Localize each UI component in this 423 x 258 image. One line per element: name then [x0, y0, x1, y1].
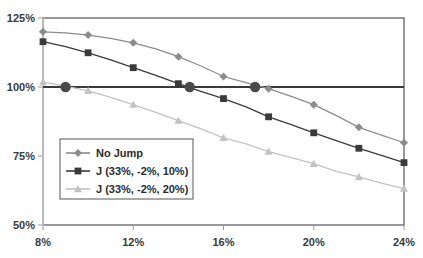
diamond-marker [174, 53, 182, 61]
legend-label: J (33%, -2%, 20%) [96, 183, 189, 195]
crossing-marker-2 [250, 82, 260, 92]
diamond-marker [39, 28, 47, 36]
square-marker [130, 64, 137, 71]
triangle-marker [220, 134, 228, 141]
diamond-marker [400, 139, 408, 147]
square-marker [40, 38, 47, 45]
x-tick-label-24%: 24% [393, 236, 415, 248]
chart-container: 50%75%100%125%8%12%16%20%24%No JumpJ (33… [0, 0, 423, 258]
diamond-marker [310, 101, 318, 109]
x-tick-label-12%: 12% [122, 236, 144, 248]
legend-label: J (33%, -2%, 10%) [96, 165, 189, 177]
triangle-marker [39, 78, 47, 85]
square-marker [75, 168, 82, 175]
square-marker [85, 49, 92, 56]
square-marker [175, 80, 182, 87]
y-tick-label-125%: 125% [7, 12, 35, 24]
crossing-marker-1 [184, 82, 194, 92]
diamond-marker [129, 39, 137, 47]
line-chart: 50%75%100%125%8%12%16%20%24%No JumpJ (33… [0, 0, 423, 258]
diamond-marker [220, 73, 228, 81]
legend: No JumpJ (33%, -2%, 10%)J (33%, -2%, 20%… [60, 139, 193, 199]
y-tick-label-75%: 75% [13, 150, 35, 162]
diamond-marker [84, 31, 92, 39]
y-tick-label-50%: 50% [13, 219, 35, 231]
square-marker [355, 145, 362, 152]
legend-label: No Jump [96, 147, 143, 159]
square-marker [265, 113, 272, 120]
x-tick-label-20%: 20% [303, 236, 325, 248]
crossing-marker-0 [60, 82, 70, 92]
square-marker [310, 129, 317, 136]
diamond-marker [265, 85, 273, 93]
y-tick-label-100%: 100% [7, 81, 35, 93]
square-marker [401, 159, 408, 166]
x-tick-label-8%: 8% [35, 236, 51, 248]
diamond-marker [355, 123, 363, 131]
square-marker [220, 95, 227, 102]
x-tick-label-16%: 16% [212, 236, 234, 248]
